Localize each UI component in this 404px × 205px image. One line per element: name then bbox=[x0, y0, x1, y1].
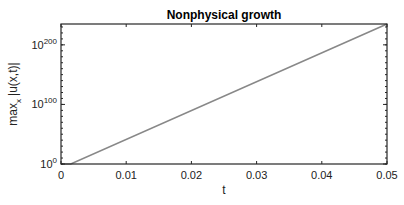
x-tick-label: 0.05 bbox=[376, 169, 397, 181]
x-tick-label: 0.03 bbox=[246, 169, 267, 181]
x-axis-label: t bbox=[222, 183, 226, 197]
svg-text:maxx|u(x,t)|: maxx|u(x,t)| bbox=[6, 62, 23, 125]
x-tick-label: 0.01 bbox=[115, 169, 136, 181]
y-axis-label: maxx|u(x,t)| bbox=[6, 62, 23, 125]
y-tick-label: 10200 bbox=[31, 37, 57, 51]
y-tick-label: 10100 bbox=[31, 96, 57, 110]
plot-area bbox=[61, 24, 387, 164]
x-tick-label: 0.02 bbox=[181, 169, 202, 181]
y-tick-label: 100 bbox=[40, 156, 57, 170]
chart: Nonphysical growth 00.010.020.030.040.05… bbox=[0, 0, 404, 205]
x-tick-label: 0 bbox=[58, 169, 64, 181]
series-line bbox=[61, 24, 387, 164]
x-axis: 00.010.020.030.040.05 bbox=[58, 24, 398, 181]
chart-title: Nonphysical growth bbox=[167, 8, 282, 22]
x-tick-label: 0.04 bbox=[311, 169, 332, 181]
